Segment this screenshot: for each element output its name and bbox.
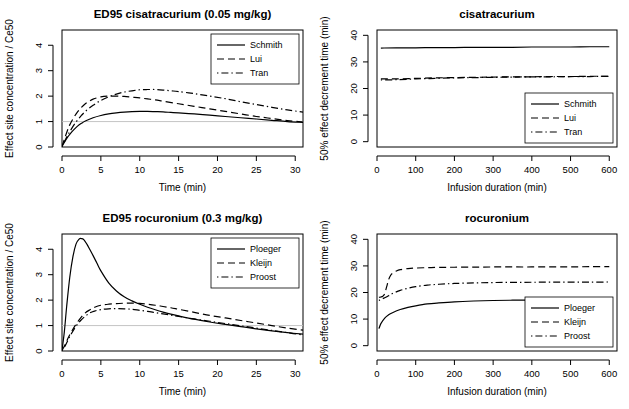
chart-rocuronium-concentration: ED95 rocuronium (0.3 mg/kg)051015202530T… (0, 204, 315, 409)
series-line-kleijn (62, 303, 303, 350)
y-tick-label: 40 (348, 30, 359, 41)
legend-label-tran: Tran (564, 127, 582, 137)
x-tick-label: 0 (374, 164, 379, 175)
series-line-proost (62, 309, 303, 351)
panel-cisatracurium-decrement: cisatracurium0100200300400500600Infusion… (315, 0, 629, 205)
x-tick-label: 200 (446, 164, 462, 175)
x-tick-label: 100 (408, 368, 424, 379)
y-tick-label: 20 (348, 83, 359, 94)
x-tick-label: 500 (563, 368, 579, 379)
series-line-schmith (62, 111, 303, 146)
panel-rocuronium-concentration: ED95 rocuronium (0.3 mg/kg)051015202530T… (0, 204, 315, 409)
y-axis-label: 50% effect decrement time (min) (319, 16, 330, 160)
x-tick-label: 5 (98, 368, 103, 379)
y-tick-label: 2 (33, 297, 44, 302)
x-tick-label: 0 (374, 368, 379, 379)
figure-canvas: ED95 cisatracurium (0.05 mg/kg)051015202… (0, 0, 629, 409)
y-tick-label: 10 (348, 314, 359, 325)
y-tick-label: 3 (33, 272, 44, 277)
x-tick-label: 600 (601, 164, 617, 175)
y-tick-label: 1 (33, 323, 44, 328)
chart-cisatracurium-concentration: ED95 cisatracurium (0.05 mg/kg)051015202… (0, 0, 315, 205)
y-tick-label: 4 (33, 43, 44, 48)
y-tick-label: 30 (348, 261, 359, 272)
y-tick-label: 20 (348, 287, 359, 298)
x-tick-label: 20 (212, 164, 223, 175)
y-tick-label: 0 (33, 348, 44, 353)
x-axis-label: Infusion duration (min) (447, 182, 547, 193)
series-line-kleijn (379, 267, 609, 298)
chart-title: ED95 cisatracurium (0.05 mg/kg) (94, 8, 272, 20)
legend-label-ploeger: Ploeger (250, 244, 281, 254)
y-tick-label: 0 (348, 139, 359, 144)
x-tick-label: 30 (290, 368, 301, 379)
y-axis-label: 50% effect decrement time (min) (319, 220, 330, 364)
legend-label-schmith: Schmith (564, 99, 597, 109)
chart-title: cisatracurium (459, 8, 534, 20)
x-tick-label: 25 (251, 368, 262, 379)
y-axis-label: Effect site concentration / Ce50 (4, 223, 15, 362)
x-tick-label: 10 (134, 164, 145, 175)
x-tick-label: 5 (98, 164, 103, 175)
y-tick-label: 0 (348, 343, 359, 348)
panel-cisatracurium-concentration: ED95 cisatracurium (0.05 mg/kg)051015202… (0, 0, 315, 205)
x-axis-label: Time (min) (159, 182, 206, 193)
x-tick-label: 0 (59, 368, 64, 379)
legend-label-kleijn: Kleijn (564, 317, 586, 327)
chart-title: ED95 rocuronium (0.3 mg/kg) (103, 212, 263, 224)
x-tick-label: 600 (601, 368, 617, 379)
y-tick-label: 0 (33, 144, 44, 149)
x-axis-label: Time (min) (159, 386, 206, 397)
x-tick-label: 200 (446, 368, 462, 379)
x-tick-label: 10 (134, 368, 145, 379)
legend-label-proost: Proost (564, 331, 591, 341)
y-tick-label: 3 (33, 68, 44, 73)
x-tick-label: 15 (173, 368, 184, 379)
x-tick-label: 0 (59, 164, 64, 175)
x-tick-label: 25 (251, 164, 262, 175)
legend-label-proost: Proost (250, 272, 277, 282)
chart-cisatracurium-decrement: cisatracurium0100200300400500600Infusion… (315, 0, 629, 205)
legend-label-kleijn: Kleijn (250, 258, 272, 268)
y-tick-label: 40 (348, 234, 359, 245)
x-tick-label: 500 (563, 164, 579, 175)
legend-label-lui: Lui (564, 113, 576, 123)
legend-label-lui: Lui (250, 54, 262, 64)
x-tick-label: 400 (524, 368, 540, 379)
x-tick-label: 300 (485, 368, 501, 379)
y-tick-label: 2 (33, 93, 44, 98)
y-tick-label: 30 (348, 57, 359, 68)
legend-label-tran: Tran (250, 68, 268, 78)
x-tick-label: 20 (212, 368, 223, 379)
y-tick-label: 4 (33, 247, 44, 252)
x-tick-label: 30 (290, 164, 301, 175)
y-axis-label: Effect site concentration / Ce50 (4, 19, 15, 158)
x-tick-label: 15 (173, 164, 184, 175)
x-tick-label: 400 (524, 164, 540, 175)
chart-rocuronium-decrement: rocuronium0100200300400500600Infusion du… (315, 204, 629, 409)
x-tick-label: 100 (408, 164, 424, 175)
y-tick-label: 10 (348, 110, 359, 121)
x-axis-label: Infusion duration (min) (447, 386, 547, 397)
series-line-schmith (381, 47, 609, 48)
chart-title: rocuronium (465, 212, 529, 224)
legend-label-ploeger: Ploeger (564, 303, 595, 313)
legend-label-schmith: Schmith (250, 40, 283, 50)
y-tick-label: 1 (33, 119, 44, 124)
panel-rocuronium-decrement: rocuronium0100200300400500600Infusion du… (315, 204, 629, 409)
x-tick-label: 300 (485, 164, 501, 175)
